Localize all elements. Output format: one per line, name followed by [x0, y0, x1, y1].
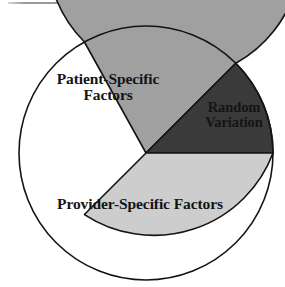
pie-label-random-variation: Random Variation [191, 100, 277, 131]
pie-label-patient-specific-factors: Patient-Specific Factors [38, 71, 178, 104]
pie-chart [0, 0, 285, 287]
pie-chart-figure: Patient-Specific Factors Random Variatio… [0, 0, 285, 287]
pie-label-provider-specific-factors: Provider-Specific Factors [42, 196, 238, 212]
